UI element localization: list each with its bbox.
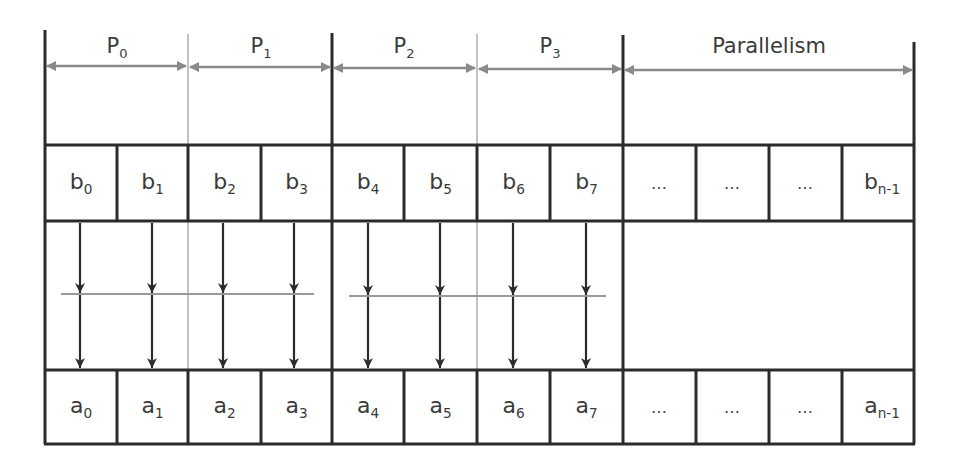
a-cell-label: …: [651, 398, 668, 417]
a-cell-label: an-1: [864, 393, 900, 421]
a-cell-label: …: [797, 398, 814, 417]
b-cell-label: …: [724, 174, 741, 193]
a-cell-label: a6: [502, 393, 524, 421]
processor-label-p1: P1: [251, 34, 272, 61]
a-cell-label: …: [724, 398, 741, 417]
b-cell-label: b6: [502, 169, 525, 197]
b-cell-label: b7: [575, 169, 598, 197]
b-cell-label: b5: [429, 169, 452, 197]
b-cell-label: …: [651, 174, 668, 193]
a-cell-label: a4: [357, 393, 379, 421]
a-cell-label: a7: [575, 393, 597, 421]
processor-label-parallelism: Parallelism: [712, 34, 826, 58]
processor-label-p3: P3: [540, 34, 561, 61]
processor-label-p0: P0: [107, 34, 128, 61]
a-cell-label: a1: [141, 393, 163, 421]
b-cell-label: bn-1: [864, 169, 900, 197]
a-cell-label: a3: [285, 393, 307, 421]
processor-label-p2: P2: [394, 34, 415, 61]
b-cell-label: b1: [141, 169, 164, 197]
a-cell-label: a0: [70, 393, 92, 421]
parallel-mapping-diagram: P0P1P2P3Parallelismb0b1b2b3b4b5b6b7………bn…: [0, 0, 953, 469]
a-cell-label: a5: [429, 393, 451, 421]
b-cell-label: b0: [70, 169, 93, 197]
b-cell-label: b3: [285, 169, 308, 197]
a-cell-label: a2: [213, 393, 235, 421]
b-cell-label: …: [797, 174, 814, 193]
b-cell-label: b4: [357, 169, 380, 197]
b-cell-label: b2: [213, 169, 236, 197]
